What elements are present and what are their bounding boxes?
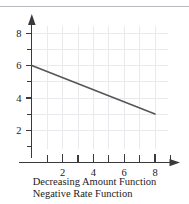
- y-axis: [28, 14, 36, 158]
- x-tick-label-2: 2: [60, 167, 65, 176]
- x-axis: [19, 159, 180, 166]
- grid-lines: [32, 26, 168, 149]
- y-tick-label-6: 6: [16, 60, 21, 71]
- x-tick-label-6: 6: [122, 167, 127, 176]
- figure-container: 8 6 4 2 2 4 6 8 Decreasing: [0, 0, 189, 204]
- x-axis-ticks: [47, 154, 170, 163]
- x-tick-label-4: 4: [91, 167, 97, 176]
- y-tick-label-8: 8: [16, 28, 21, 39]
- caption-line-2: Negative Rate Function: [33, 188, 157, 200]
- top-divider-rule: [0, 6, 189, 7]
- figure-caption: Decreasing Amount Function Negative Rate…: [0, 176, 189, 199]
- y-axis-ticks: [26, 33, 32, 146]
- y-tick-label-4: 4: [16, 93, 22, 104]
- y-tick-label-2: 2: [16, 125, 21, 136]
- caption-line-1: Decreasing Amount Function: [33, 176, 157, 188]
- y-axis-arrowhead: [28, 14, 36, 25]
- x-tick-label-8: 8: [152, 167, 157, 176]
- chart-plot: 8 6 4 2 2 4 6 8: [0, 8, 189, 176]
- x-axis-arrowhead: [170, 159, 181, 166]
